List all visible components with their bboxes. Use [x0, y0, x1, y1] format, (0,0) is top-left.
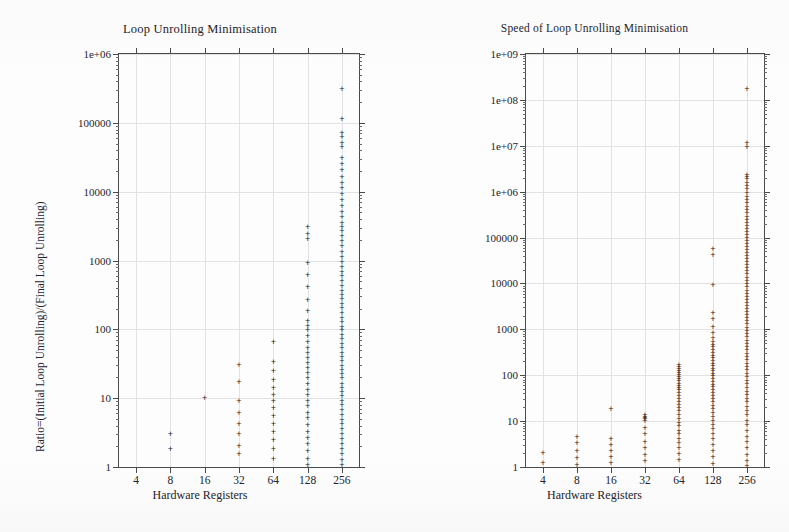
y-axis-minor-tick [116, 336, 119, 337]
y-axis-minor-tick [764, 399, 767, 400]
y-axis-tick-label: 100000 [78, 117, 111, 129]
data-point [744, 86, 751, 93]
y-axis-minor-tick [359, 296, 362, 297]
y-axis-tick [113, 123, 119, 124]
y-axis-tick-label: 1 [513, 461, 519, 473]
y-axis-minor-tick [764, 216, 767, 217]
data-point [709, 461, 716, 468]
x-axis-tick [611, 48, 612, 54]
y-axis-minor-tick [764, 114, 767, 115]
y-axis-minor-tick [359, 133, 362, 134]
y-axis-minor-tick [359, 102, 362, 103]
data-point [235, 421, 242, 428]
y-axis-minor-tick [116, 126, 119, 127]
y-axis-minor-tick [764, 242, 767, 243]
y-axis-tick [359, 467, 365, 468]
y-axis-minor-tick [359, 150, 362, 151]
data-point [235, 398, 242, 405]
y-axis-minor-tick [764, 294, 767, 295]
y-axis-minor-tick [523, 164, 526, 165]
y-axis-minor-tick [359, 57, 362, 58]
y-axis-minor-tick [116, 159, 119, 160]
x-axis-tick [273, 467, 274, 473]
y-axis-minor-tick [359, 434, 362, 435]
y-axis-tick [520, 146, 526, 147]
x-axis-tick-label: 32 [639, 474, 651, 486]
y-axis-minor-tick [523, 435, 526, 436]
y-axis-minor-tick [523, 78, 526, 79]
y-axis-minor-tick [523, 72, 526, 73]
y-axis-minor-tick [764, 78, 767, 79]
y-axis-minor-tick [764, 124, 767, 125]
y-axis-minor-tick [116, 75, 119, 76]
y-axis-minor-tick [764, 331, 767, 332]
y-axis-minor-tick [523, 58, 526, 59]
y-axis-minor-tick [764, 435, 767, 436]
y-axis-minor-tick [764, 288, 767, 289]
y-axis-minor-tick [764, 426, 767, 427]
y-axis-minor-tick [523, 340, 526, 341]
y-axis-minor-tick [523, 297, 526, 298]
gridline-vertical [205, 54, 206, 467]
y-axis-tick [764, 283, 770, 284]
y-axis-minor-tick [359, 336, 362, 337]
y-axis-tick-label: 1000 [496, 323, 518, 335]
y-axis-minor-tick [359, 171, 362, 172]
y-axis-minor-tick [116, 212, 119, 213]
y-axis-minor-tick [359, 340, 362, 341]
data-point [539, 450, 546, 457]
y-axis-minor-tick [523, 102, 526, 103]
x-axis-tick [577, 48, 578, 54]
y-axis-minor-tick [764, 380, 767, 381]
y-axis-minor-tick [359, 75, 362, 76]
y-axis-minor-tick [523, 307, 526, 308]
y-axis-minor-tick [523, 156, 526, 157]
data-point [338, 462, 345, 469]
gridline-vertical [645, 54, 646, 467]
y-axis-minor-tick [359, 65, 362, 66]
y-axis-minor-tick [523, 380, 526, 381]
y-axis-minor-tick [116, 171, 119, 172]
x-axis-tick [136, 467, 137, 473]
y-axis-minor-tick [116, 133, 119, 134]
y-axis-minor-tick [523, 240, 526, 241]
y-axis-minor-tick [523, 393, 526, 394]
data-point [573, 462, 580, 469]
y-axis-minor-tick [764, 423, 767, 424]
y-axis-minor-tick [523, 160, 526, 161]
data-point [304, 236, 311, 243]
y-axis-minor-tick [116, 426, 119, 427]
y-axis-minor-tick [116, 138, 119, 139]
x-axis-tick-label: 4 [540, 474, 546, 486]
y-axis-minor-tick [764, 178, 767, 179]
y-axis-minor-tick [116, 264, 119, 265]
y-axis-title: Ratio=(Initial Loop Unrolling)/(Final Lo… [34, 201, 46, 452]
y-axis-minor-tick [764, 110, 767, 111]
data-point [709, 252, 716, 259]
y-axis-minor-tick [359, 309, 362, 310]
y-axis-minor-tick [116, 345, 119, 346]
y-axis-minor-tick [764, 334, 767, 335]
y-axis-minor-tick [116, 271, 119, 272]
y-axis-minor-tick [523, 389, 526, 390]
y-axis-minor-tick [116, 409, 119, 410]
y-axis-tick [764, 329, 770, 330]
data-point [641, 458, 648, 465]
y-axis-minor-tick [359, 81, 362, 82]
y-axis-minor-tick [523, 431, 526, 432]
y-axis-minor-tick [764, 348, 767, 349]
y-axis-minor-tick [764, 445, 767, 446]
y-axis-tick [113, 467, 119, 468]
y-axis-minor-tick [764, 132, 767, 133]
y-axis-minor-tick [116, 144, 119, 145]
y-axis-minor-tick [764, 56, 767, 57]
y-axis-minor-tick [764, 194, 767, 195]
y-axis-tick-label: 10 [100, 392, 111, 404]
data-point [235, 379, 242, 386]
y-axis-minor-tick [523, 399, 526, 400]
y-axis-minor-tick [116, 198, 119, 199]
y-axis-minor-tick [116, 219, 119, 220]
y-axis-minor-tick [523, 202, 526, 203]
y-axis-minor-tick [359, 159, 362, 160]
y-axis-tick [520, 421, 526, 422]
